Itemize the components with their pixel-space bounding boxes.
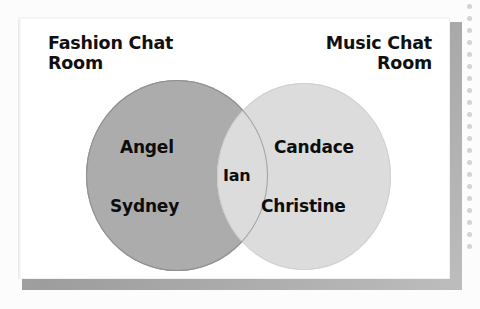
page-margin-dot bbox=[467, 184, 472, 189]
page-margin-dot bbox=[467, 220, 472, 225]
page-margin-dot bbox=[467, 196, 472, 201]
page-margin-dot bbox=[467, 160, 472, 165]
page-margin-dot bbox=[467, 76, 472, 81]
page-margin-dot bbox=[467, 148, 472, 153]
page-margin-dot bbox=[467, 64, 472, 69]
page-margin-dot bbox=[467, 88, 472, 93]
page-margin-dot bbox=[467, 136, 472, 141]
page-margin-dot bbox=[467, 112, 472, 117]
page-margin-dot bbox=[467, 16, 472, 21]
set-label-music-chat-room: Music Chat Room bbox=[252, 33, 432, 73]
member-label-ian: Ian bbox=[223, 166, 251, 185]
page-margin-dot bbox=[467, 40, 472, 45]
page-margin-dot bbox=[467, 208, 472, 213]
member-label-angel: Angel bbox=[120, 137, 174, 157]
page-margin-dot bbox=[467, 244, 472, 249]
diagram-plot-area: Fashion Chat Room Music Chat Room Angel … bbox=[18, 17, 450, 279]
member-label-sydney: Sydney bbox=[110, 196, 179, 216]
page-margin-dot-column bbox=[467, 4, 474, 309]
page-margin-dot bbox=[467, 4, 472, 9]
venn-diagram-screenshot: Fashion Chat Room Music Chat Room Angel … bbox=[0, 0, 480, 309]
page-margin-dot bbox=[467, 124, 472, 129]
page-margin-dot bbox=[467, 52, 472, 57]
set-label-fashion-chat-room: Fashion Chat Room bbox=[48, 33, 228, 73]
member-label-candace: Candace bbox=[274, 137, 354, 157]
member-label-christine: Christine bbox=[261, 196, 346, 216]
page-margin-dot bbox=[467, 28, 472, 33]
page-margin-dot bbox=[467, 100, 472, 105]
page-margin-dot bbox=[467, 232, 472, 237]
page-margin-dot bbox=[467, 172, 472, 177]
